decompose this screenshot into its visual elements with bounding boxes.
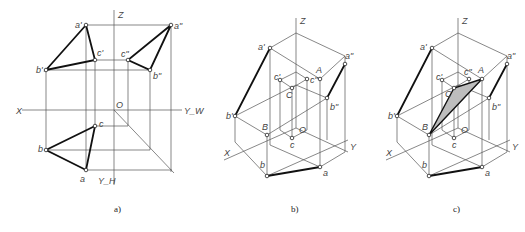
origin-label: O xyxy=(116,100,123,110)
yh-axis-label: Y_H xyxy=(98,176,116,186)
point-label: B xyxy=(262,122,268,132)
point-label: b" xyxy=(492,102,501,112)
panel-a-orthographic-views: Z X O Y_W Y_H a' c' b' a" c" b" c b a a) xyxy=(15,10,205,214)
caption-a: a) xyxy=(114,204,121,214)
point-label: a xyxy=(80,174,85,184)
y-axis-label: Y xyxy=(512,142,519,152)
point-label: a" xyxy=(345,51,354,61)
projection-diagrams: Z X O Y_W Y_H a' c' b' a" c" b" c b a a) xyxy=(0,0,525,232)
x-axis-label: X xyxy=(223,148,231,158)
point-label: a xyxy=(485,168,490,178)
panel-b-axonometric: Z X Y O a' a" A c' c" C b' b" B c b a b) xyxy=(223,16,357,214)
point-label: c' xyxy=(274,72,281,82)
y-axis-label: Y xyxy=(350,142,357,152)
origin-label: O xyxy=(299,125,306,135)
point-label: b' xyxy=(388,111,395,121)
point-label: c" xyxy=(464,67,473,77)
top-view-triangle xyxy=(46,126,95,170)
caption-c: c) xyxy=(453,204,460,214)
edge-a1-b1 xyxy=(235,48,270,116)
caption-b: b) xyxy=(291,204,299,214)
point-label: a xyxy=(323,168,328,178)
point-label: b" xyxy=(153,71,162,81)
point-label: C xyxy=(286,90,293,100)
point-label: b" xyxy=(330,102,339,112)
point-label: a' xyxy=(258,42,265,52)
point-label: b xyxy=(38,144,43,154)
point-label: c" xyxy=(121,49,130,59)
point-label: C xyxy=(445,89,452,99)
point-label: b xyxy=(260,160,265,170)
edge-a2-b2 xyxy=(327,64,345,98)
point-label: c' xyxy=(436,72,443,82)
side-view-triangle xyxy=(128,25,171,70)
z-axis-label: Z xyxy=(461,16,468,26)
point-label: c xyxy=(99,119,104,129)
point-label: c" xyxy=(310,75,319,85)
point-label: A xyxy=(315,65,322,75)
point-label: c' xyxy=(97,48,104,58)
x-axis-label: X xyxy=(385,148,393,158)
point-label: b' xyxy=(36,65,43,75)
point-label: c xyxy=(290,140,295,150)
point-label: B xyxy=(422,122,428,132)
point-label: c xyxy=(452,140,457,150)
z-axis-label: Z xyxy=(117,10,124,20)
diagonal-45-line xyxy=(114,110,174,173)
edge-b-a xyxy=(267,167,320,176)
panel-c-axonometric-shaded: Z X Y O a' a" A c' c" C b' b" B c b a c) xyxy=(385,16,519,214)
point-label: a' xyxy=(75,20,82,30)
point-label: A xyxy=(477,65,484,75)
point-label: b' xyxy=(226,111,233,121)
front-view-triangle xyxy=(46,25,95,70)
point-label: a" xyxy=(174,21,183,31)
point-label: a' xyxy=(420,42,427,52)
yw-axis-label: Y_W xyxy=(184,106,205,116)
z-axis-label: Z xyxy=(299,16,306,26)
x-axis-label: X xyxy=(15,106,23,116)
point-label: a" xyxy=(507,51,516,61)
point-label: b xyxy=(422,160,427,170)
origin-label: O xyxy=(461,125,468,135)
